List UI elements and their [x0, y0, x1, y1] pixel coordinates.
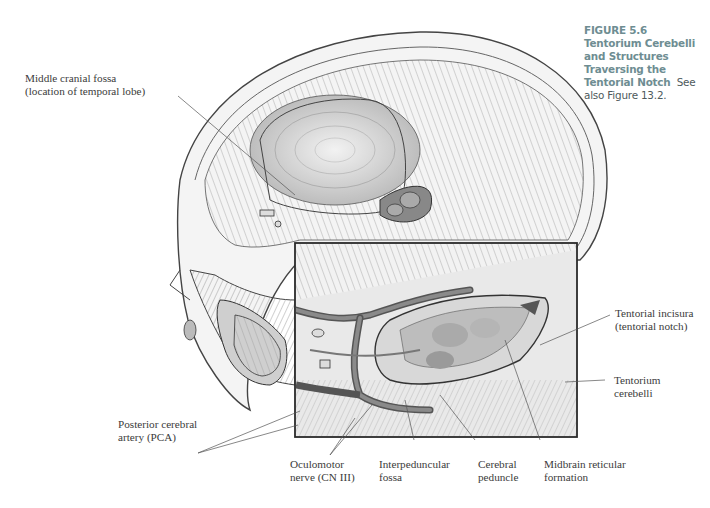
figure-title-line3: Tentorial Notch [584, 76, 671, 88]
label-tentorium-cerebelli: Tentorium cerebelli [614, 374, 660, 400]
label-line: Midbrain reticular [544, 458, 626, 471]
label-line: (tentorial notch) [615, 320, 693, 333]
label-line: cerebelli [614, 387, 660, 400]
label-line: formation [544, 471, 626, 484]
label-oculomotor-nerve: Oculomotor nerve (CN III) [290, 458, 355, 484]
figure-caption: FIGURE 5.6 Tentorium Cerebelli and Struc… [584, 24, 710, 102]
label-posterior-cerebral-artery: Posterior cerebral artery (PCA) [118, 418, 197, 444]
label-line: (location of temporal lobe) [25, 85, 145, 98]
label-interpeduncular-fossa: Interpeduncular fossa [379, 458, 450, 484]
label-line: nerve (CN III) [290, 471, 355, 484]
figure-title-line2: and Structures Traversing the [584, 50, 669, 75]
label-cerebral-peduncle: Cerebral peduncle [478, 458, 518, 484]
label-line: Oculomotor [290, 458, 355, 471]
figure-number: FIGURE 5.6 [584, 24, 647, 36]
label-middle-cranial-fossa: Middle cranial fossa (location of tempor… [25, 72, 145, 98]
label-line: Middle cranial fossa [25, 72, 145, 85]
label-line: Tentorial incisura [615, 307, 693, 320]
label-line: fossa [379, 471, 450, 484]
label-line: peduncle [478, 471, 518, 484]
label-line: Posterior cerebral [118, 418, 197, 431]
label-midbrain-reticular-formation: Midbrain reticular formation [544, 458, 626, 484]
label-tentorial-incisura: Tentorial incisura (tentorial notch) [615, 307, 693, 333]
label-line: Cerebral [478, 458, 518, 471]
label-line: Tentorium [614, 374, 660, 387]
label-line: artery (PCA) [118, 431, 197, 444]
figure-title-line1: Tentorium Cerebelli [584, 37, 695, 49]
inset-magnified-view [295, 243, 577, 437]
label-line: Interpeduncular [379, 458, 450, 471]
